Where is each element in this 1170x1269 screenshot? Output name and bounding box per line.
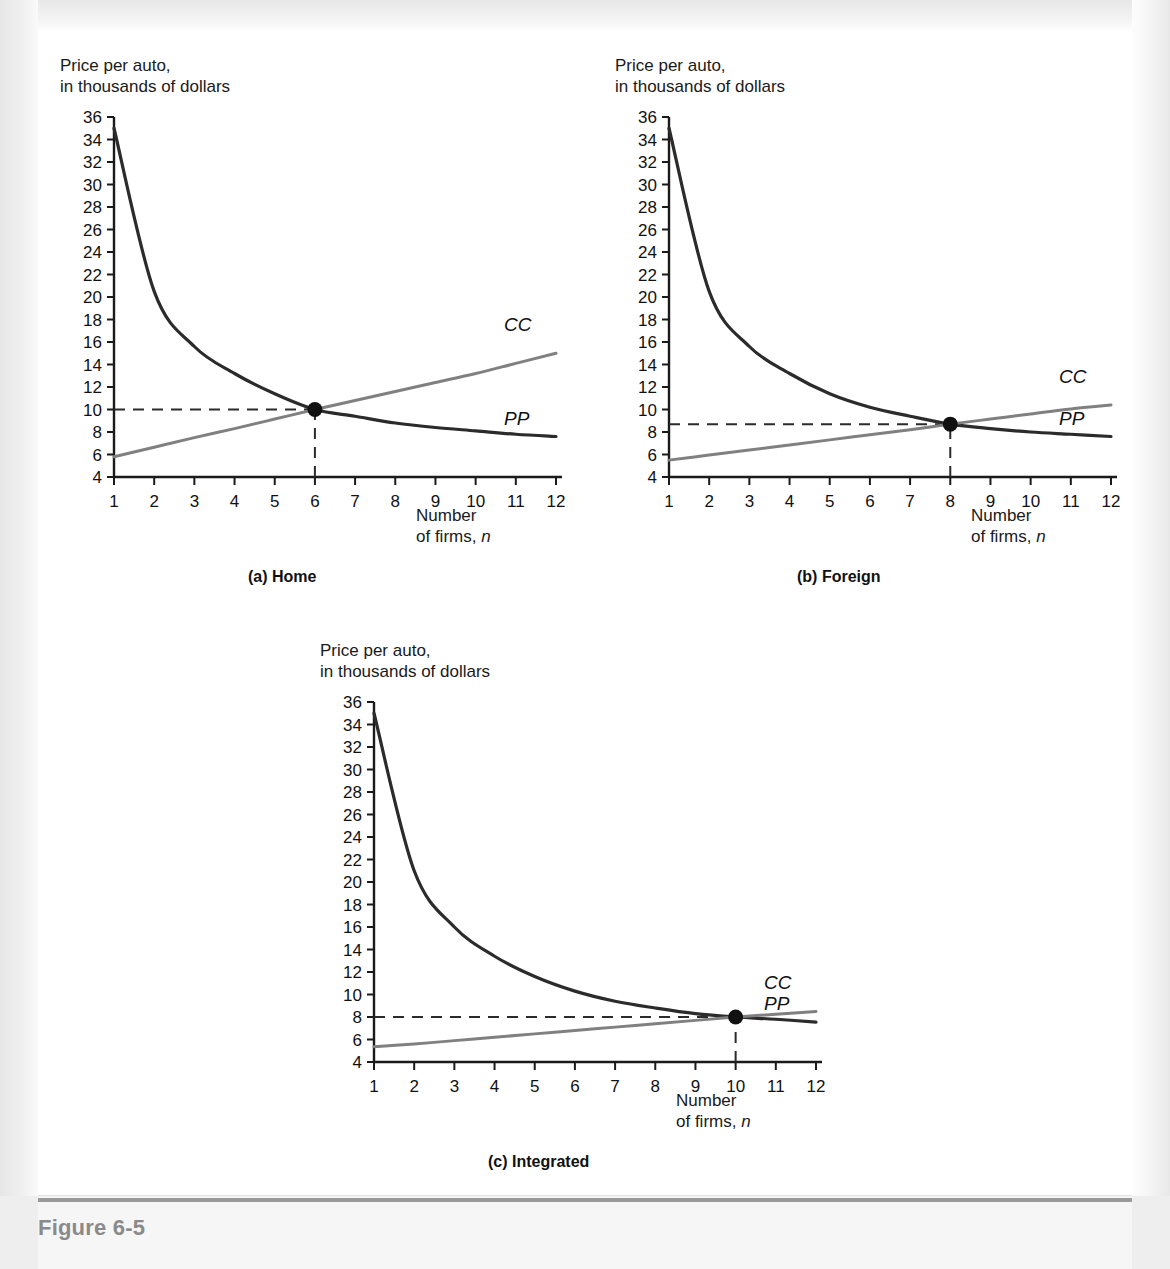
equilibrium-point: [943, 417, 958, 432]
y-tick-label: 30: [83, 176, 102, 195]
pp-curve: [669, 128, 1111, 436]
y-tick-label: 8: [353, 1008, 362, 1027]
y-tick-label: 10: [638, 401, 657, 420]
x-tick-label: 2: [704, 492, 713, 511]
panel-foreign: Price per auto,in thousands of dollars 4…: [611, 55, 1131, 595]
page-gutter-left: [0, 0, 38, 1269]
y-tick-label: 22: [638, 266, 657, 285]
equilibrium-point: [728, 1010, 743, 1025]
chart-integrated: 4681012141618202224262830323436123456789…: [316, 690, 836, 1110]
x-tick-label: 12: [547, 492, 566, 511]
y-tick-label: 26: [638, 221, 657, 240]
y-tick-label: 10: [83, 401, 102, 420]
cc-curve: [114, 353, 556, 457]
x-tick-label: 3: [450, 1077, 459, 1096]
pp-curve-label: PP: [504, 408, 530, 429]
x-tick-label: 6: [310, 492, 319, 511]
y-tick-label: 26: [343, 806, 362, 825]
y-tick-label: 4: [353, 1053, 362, 1072]
y-tick-label: 12: [343, 963, 362, 982]
x-tick-label: 4: [490, 1077, 499, 1096]
y-tick-label: 34: [638, 131, 657, 150]
y-tick-label: 18: [638, 311, 657, 330]
panel-integrated: Price per auto,in thousands of dollars 4…: [316, 640, 836, 1180]
x-tick-label: 2: [149, 492, 158, 511]
x-tick-label: 1: [664, 492, 673, 511]
y-tick-label: 20: [83, 288, 102, 307]
x-tick-label: 1: [369, 1077, 378, 1096]
y-tick-label: 4: [648, 468, 657, 487]
y-tick-label: 8: [93, 423, 102, 442]
chart-foreign: 4681012141618202224262830323436123456789…: [611, 105, 1131, 525]
x-tick-label: 11: [1062, 492, 1080, 511]
x-tick-label: 2: [409, 1077, 418, 1096]
y-tick-label: 16: [638, 333, 657, 352]
y-tick-label: 6: [648, 446, 657, 465]
x-tick-label: 11: [507, 492, 525, 511]
y-tick-label: 24: [83, 243, 102, 262]
y-axis-title-foreign: Price per auto,in thousands of dollars: [615, 55, 785, 97]
y-tick-label: 16: [83, 333, 102, 352]
y-tick-label: 8: [648, 423, 657, 442]
x-axis-title-integrated: Numberof firms, n: [676, 1090, 751, 1132]
panel-caption-integrated: (c) Integrated: [488, 1153, 589, 1171]
y-tick-label: 10: [343, 986, 362, 1005]
figure-caption: Figure 6-5: [38, 1215, 145, 1241]
panel-caption-home: (a) Home: [248, 568, 316, 586]
y-tick-label: 18: [83, 311, 102, 330]
y-tick-label: 6: [93, 446, 102, 465]
page-background: Price per auto,in thousands of dollars 4…: [0, 0, 1170, 1269]
pp-curve: [374, 713, 816, 1022]
x-tick-label: 6: [865, 492, 874, 511]
x-tick-label: 3: [745, 492, 754, 511]
y-tick-label: 24: [343, 828, 362, 847]
y-tick-label: 24: [638, 243, 657, 262]
x-tick-label: 8: [651, 1077, 660, 1096]
y-tick-label: 28: [638, 198, 657, 217]
page-gutter-top: [0, 0, 1170, 30]
y-tick-label: 6: [353, 1031, 362, 1050]
x-tick-label: 7: [905, 492, 914, 511]
pp-curve: [114, 128, 556, 436]
y-tick-label: 20: [638, 288, 657, 307]
x-tick-label: 12: [1102, 492, 1121, 511]
x-tick-label: 3: [190, 492, 199, 511]
pp-curve-label: PP: [1059, 408, 1085, 429]
y-tick-label: 16: [343, 918, 362, 937]
y-tick-label: 28: [343, 783, 362, 802]
y-tick-label: 4: [93, 468, 102, 487]
y-tick-label: 14: [83, 356, 102, 375]
x-tick-label: 8: [391, 492, 400, 511]
x-tick-label: 11: [767, 1077, 785, 1096]
y-tick-label: 12: [83, 378, 102, 397]
y-axis-title-integrated: Price per auto,in thousands of dollars: [320, 640, 490, 682]
x-axis-title-home: Numberof firms, n: [416, 505, 491, 547]
x-tick-label: 4: [785, 492, 794, 511]
figure-divider-rule: [38, 1198, 1132, 1202]
y-tick-label: 32: [343, 738, 362, 757]
x-tick-label: 1: [109, 492, 118, 511]
cc-curve-label: CC: [1059, 366, 1087, 387]
y-tick-label: 14: [343, 941, 362, 960]
y-tick-label: 12: [638, 378, 657, 397]
y-tick-label: 18: [343, 896, 362, 915]
panel-caption-foreign: (b) Foreign: [797, 568, 881, 586]
x-tick-label: 5: [270, 492, 279, 511]
y-tick-label: 30: [638, 176, 657, 195]
x-tick-label: 6: [570, 1077, 579, 1096]
pp-curve-label: PP: [764, 993, 790, 1014]
y-tick-label: 26: [83, 221, 102, 240]
equilibrium-point: [307, 402, 322, 417]
cc-curve-label: CC: [504, 314, 532, 335]
y-tick-label: 36: [343, 693, 362, 712]
y-tick-label: 20: [343, 873, 362, 892]
x-tick-label: 5: [530, 1077, 539, 1096]
page-gutter-right: [1132, 0, 1170, 1269]
y-tick-label: 22: [343, 851, 362, 870]
y-tick-label: 14: [638, 356, 657, 375]
y-axis-title-home: Price per auto,in thousands of dollars: [60, 55, 230, 97]
chart-home: 4681012141618202224262830323436123456789…: [56, 105, 576, 525]
y-tick-label: 28: [83, 198, 102, 217]
x-tick-label: 7: [610, 1077, 619, 1096]
x-tick-label: 12: [807, 1077, 826, 1096]
